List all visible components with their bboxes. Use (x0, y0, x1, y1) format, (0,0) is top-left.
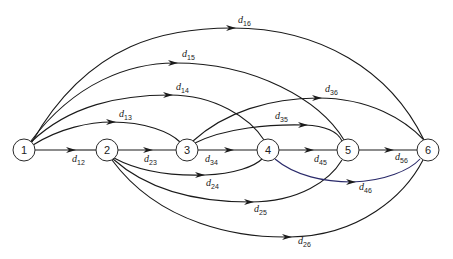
edge-4-6 (275, 159, 420, 185)
edge-1-6 (32, 25, 424, 142)
edge-label-d36: d36 (325, 83, 338, 96)
edge-label-d12: d12 (72, 153, 85, 166)
node-label: 5 (345, 144, 351, 156)
edge-label-d24: d24 (206, 177, 219, 190)
edge-4-5 (279, 147, 337, 153)
edge-label-d14: d14 (176, 81, 189, 94)
edge-label-d16: d16 (238, 14, 251, 27)
edge-label-d25: d25 (254, 203, 267, 216)
edge-1-5 (31, 60, 344, 141)
edge-5-6 (359, 147, 417, 153)
node-2[interactable]: 2 (96, 139, 118, 161)
edge-label-d23: d23 (144, 153, 157, 166)
node-label: 4 (265, 144, 271, 156)
node-5[interactable]: 5 (337, 139, 359, 161)
node-3[interactable]: 3 (176, 139, 198, 161)
edge-label-d35: d35 (275, 110, 288, 123)
edge-label-d26: d26 (298, 235, 311, 248)
edge-label-d15: d15 (182, 48, 195, 61)
edge-2-5 (113, 159, 342, 205)
edge-label-d56: d56 (395, 151, 408, 164)
edge-3-6 (193, 95, 424, 141)
node-4[interactable]: 4 (257, 139, 279, 161)
node-label: 2 (104, 144, 110, 156)
node-label: 1 (21, 144, 27, 156)
edge-label-d13: d13 (119, 108, 132, 121)
network-diagram: 1 2 3 4 5 6 d12 d23 d34 d45 d56 d13 d14 … (0, 0, 453, 259)
node-6[interactable]: 6 (417, 139, 439, 161)
edge-label-d45: d45 (314, 153, 327, 166)
edge-label-d34: d34 (205, 153, 218, 166)
node-label: 3 (184, 144, 190, 156)
node-1[interactable]: 1 (13, 139, 35, 161)
edge-label-d46: d46 (359, 181, 372, 194)
node-label: 6 (425, 144, 431, 156)
edge-1-2 (35, 147, 96, 153)
